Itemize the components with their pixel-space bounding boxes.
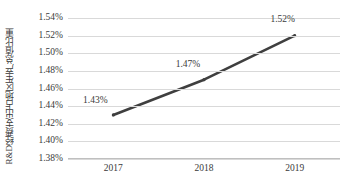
gridline bbox=[68, 18, 340, 19]
x-axis-line bbox=[68, 158, 340, 159]
plot-area bbox=[68, 18, 340, 159]
gridline bbox=[68, 53, 340, 54]
y-axis-tick-label: 1.38% bbox=[38, 154, 63, 164]
gridline bbox=[68, 124, 340, 125]
y-axis-tick-label: 1.40% bbox=[38, 137, 63, 147]
gridline bbox=[68, 141, 340, 142]
gridline bbox=[68, 89, 340, 90]
y-axis-tick-label: 1.54% bbox=[38, 13, 63, 23]
y-axis-tick-label: 1.46% bbox=[38, 84, 63, 94]
gridline bbox=[68, 71, 340, 72]
x-axis-tick-labels: 201720182019 bbox=[68, 164, 340, 184]
y-axis-tick-label: 1.52% bbox=[38, 31, 63, 41]
data-point-marker bbox=[202, 78, 205, 81]
gridline bbox=[68, 36, 340, 37]
y-axis-tick-label: 1.48% bbox=[38, 66, 63, 76]
x-axis-tick-label: 2017 bbox=[104, 164, 123, 174]
y-axis-tick-labels: 1.54%1.52%1.50%1.48%1.46%1.44%1.42%1.40%… bbox=[22, 0, 66, 193]
data-point-label: 1.52% bbox=[270, 15, 295, 25]
y-axis-tick-label: 1.42% bbox=[38, 119, 63, 129]
chart-container: R&D经费支出占地区生产总值比重 1.54%1.52%1.50%1.48%1.4… bbox=[0, 0, 360, 193]
y-axis-tick-label: 1.50% bbox=[38, 49, 63, 59]
gridline bbox=[68, 159, 340, 160]
data-point-label: 1.47% bbox=[176, 60, 201, 70]
gridline bbox=[68, 106, 340, 107]
y-axis-title-label: R&D经费支出占地区生产总值比重 bbox=[5, 28, 14, 165]
y-axis-title: R&D经费支出占地区生产总值比重 bbox=[0, 0, 18, 193]
data-point-marker bbox=[112, 113, 115, 116]
x-axis-tick-label: 2019 bbox=[285, 164, 304, 174]
y-axis-tick-label: 1.44% bbox=[38, 101, 63, 111]
x-axis-tick-label: 2018 bbox=[195, 164, 214, 174]
data-point-label: 1.43% bbox=[83, 96, 108, 106]
series-line-rd-share bbox=[113, 36, 294, 115]
